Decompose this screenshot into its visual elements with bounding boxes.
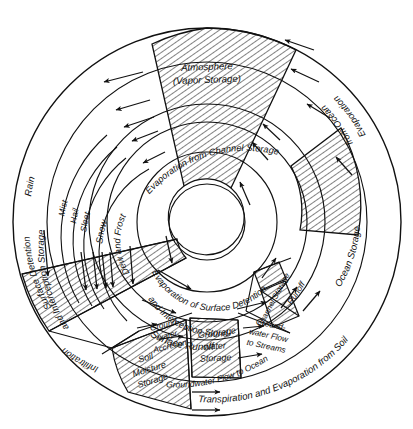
- hydrologic-cycle-diagram: Atmosphere (Vapor Storage) Rain Mist Hai…: [0, 0, 413, 429]
- label-atmosphere: Atmosphere: [180, 60, 233, 73]
- svg-text:Storage: Storage: [200, 352, 232, 364]
